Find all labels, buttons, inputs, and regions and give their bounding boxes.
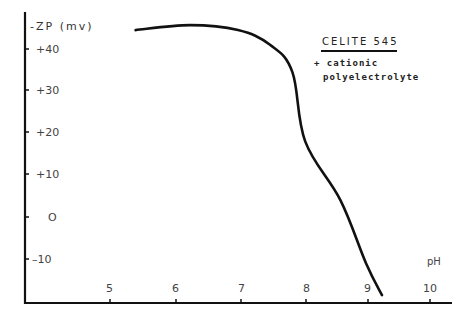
y-tick-label-0: O xyxy=(48,211,57,224)
zeta-potential-chart: +40 +30 +20 +10 O –10 -ZP (mv) 5 6 7 8 9… xyxy=(0,0,467,317)
y-tick-label-minus10: –10 xyxy=(32,253,52,266)
x-tick-label-5: 5 xyxy=(106,282,113,295)
x-tick-label-6: 6 xyxy=(172,282,179,295)
y-axis-label: -ZP (mv) xyxy=(30,20,93,33)
x-tick-label-9: 9 xyxy=(364,282,371,295)
subtitle-line-1: + cationic xyxy=(314,58,378,68)
y-tick-label-30: +30 xyxy=(36,84,59,97)
subtitle-line-2: polyelectrolyte xyxy=(323,72,419,82)
x-tick-label-10: 10 xyxy=(423,282,437,295)
x-tick-label-7: 7 xyxy=(238,282,245,295)
x-tick-label-8: 8 xyxy=(303,282,310,295)
y-tick-label-10: +10 xyxy=(36,168,59,181)
x-axis-label: pH xyxy=(427,256,441,267)
y-tick-label-40: +40 xyxy=(36,43,59,56)
y-tick-label-20: +20 xyxy=(36,126,59,139)
chart-title: CELITE 545 xyxy=(322,36,399,47)
